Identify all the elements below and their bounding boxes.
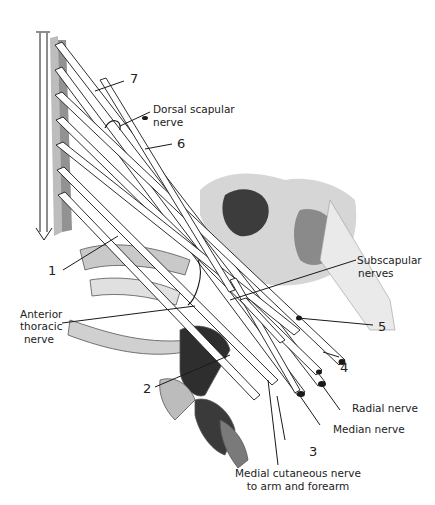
- label-anterior-thoracic-nerve-1: Anterior: [20, 308, 58, 320]
- label-4: 4: [340, 361, 348, 375]
- label-medial-cutaneous-nerve-2: to arm and forearm: [218, 480, 378, 492]
- label-anterior-thoracic-nerve-2: thoracic: [20, 320, 58, 332]
- label-2: 2: [143, 382, 151, 396]
- label-medial-cutaneous-nerve-1: Medial cutaneous nerve: [218, 467, 378, 479]
- label-7: 7: [130, 72, 138, 86]
- spinal-column: [36, 32, 72, 240]
- label-1: 1: [48, 264, 56, 278]
- label-dorsal-scapular-nerve-1: Dorsal scapular: [153, 103, 235, 115]
- label-subscapular-nerves-2: nerves: [358, 267, 394, 279]
- label-5: 5: [378, 320, 386, 334]
- label-6: 6: [177, 137, 185, 151]
- label-radial-nerve: Radial nerve: [352, 402, 418, 414]
- label-anterior-thoracic-nerve-3: nerve: [20, 333, 54, 345]
- label-median-nerve: Median nerve: [333, 423, 405, 435]
- label-3: 3: [309, 445, 317, 459]
- label-dorsal-scapular-nerve-2: nerve: [153, 116, 183, 128]
- label-subscapular-nerves-1: Subscapular: [357, 254, 422, 266]
